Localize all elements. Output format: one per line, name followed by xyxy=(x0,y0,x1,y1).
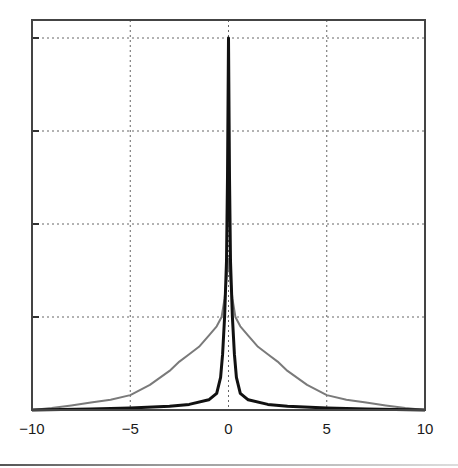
x-tick-label: −5 xyxy=(122,420,139,437)
x-tick-labels: −10−50510 xyxy=(19,420,433,437)
page-bottom-rule xyxy=(0,464,458,466)
x-tick-label: 5 xyxy=(323,420,331,437)
x-tick-label: 0 xyxy=(224,420,232,437)
x-tick-label: 10 xyxy=(417,420,434,437)
y-tick-marks xyxy=(32,38,39,317)
x-tick-label: −10 xyxy=(19,420,44,437)
line-chart: −10−50510 xyxy=(0,0,458,468)
